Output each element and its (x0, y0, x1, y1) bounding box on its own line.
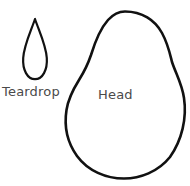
head-label: Head (98, 88, 133, 101)
teardrop-label: Teardrop (2, 85, 60, 98)
teardrop-shape (23, 19, 47, 79)
diagram-canvas: Teardrop Head (0, 0, 190, 186)
